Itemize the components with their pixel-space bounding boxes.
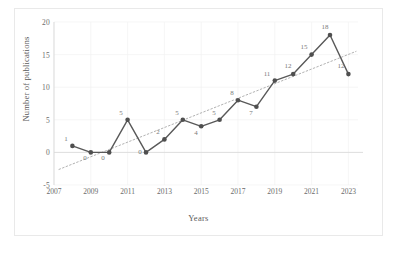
data-label-2011: 5 xyxy=(119,109,123,117)
data-line xyxy=(72,35,348,152)
data-label-2008: 1 xyxy=(64,135,68,143)
x-axis-title: Years xyxy=(0,213,397,223)
x-tick-2015: 2015 xyxy=(186,187,216,196)
y-tick-15: 15 xyxy=(28,51,50,60)
data-label-2016: 5 xyxy=(212,109,216,117)
data-label-2015: 4 xyxy=(194,129,198,137)
data-label-2013: 2 xyxy=(156,128,160,136)
data-label-2012: 0 xyxy=(138,148,142,156)
chart-figure: 20 15 10 5 0 -5 2007 2009 2011 2013 2015… xyxy=(0,0,397,253)
data-label-2017: 8 xyxy=(230,89,234,97)
y-tick-0: 0 xyxy=(28,148,50,157)
x-tick-2011: 2011 xyxy=(113,187,143,196)
data-label-2019: 11 xyxy=(264,70,271,78)
x-tick-2007: 2007 xyxy=(39,187,69,196)
x-tick-2023: 2023 xyxy=(333,187,363,196)
x-tick-2019: 2019 xyxy=(260,187,290,196)
gridlines-horizontal xyxy=(54,22,358,185)
data-label-2022: 18 xyxy=(322,23,329,31)
y-tick-10: 10 xyxy=(28,83,50,92)
data-label-2018: 7 xyxy=(249,109,253,117)
x-tick-2017: 2017 xyxy=(223,187,253,196)
x-tick-2013: 2013 xyxy=(149,187,179,196)
data-label-2014: 5 xyxy=(175,109,179,117)
data-label-2023: 12 xyxy=(338,62,345,70)
data-label-2009: 0 xyxy=(83,154,87,162)
y-axis-title: Number of publications xyxy=(21,9,31,149)
x-tick-2021: 2021 xyxy=(297,187,327,196)
x-tick-2009: 2009 xyxy=(76,187,106,196)
y-tick-5: 5 xyxy=(28,116,50,125)
data-label-2021: 15 xyxy=(301,43,308,51)
y-tick-20: 20 xyxy=(28,18,50,27)
data-markers xyxy=(70,33,351,155)
data-label-2010: 0 xyxy=(101,154,105,162)
data-label-2020: 12 xyxy=(285,62,292,70)
